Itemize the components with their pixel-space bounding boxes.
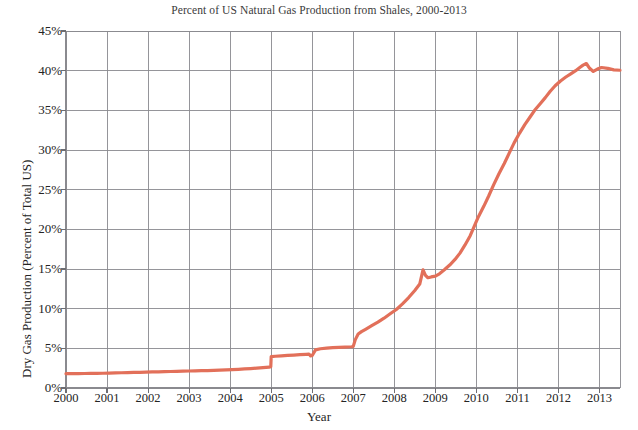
gridlines: [66, 31, 620, 388]
plot-area: [0, 0, 638, 430]
chart-figure: Percent of US Natural Gas Production fro…: [0, 0, 638, 430]
axis-tickmarks: [61, 31, 599, 393]
